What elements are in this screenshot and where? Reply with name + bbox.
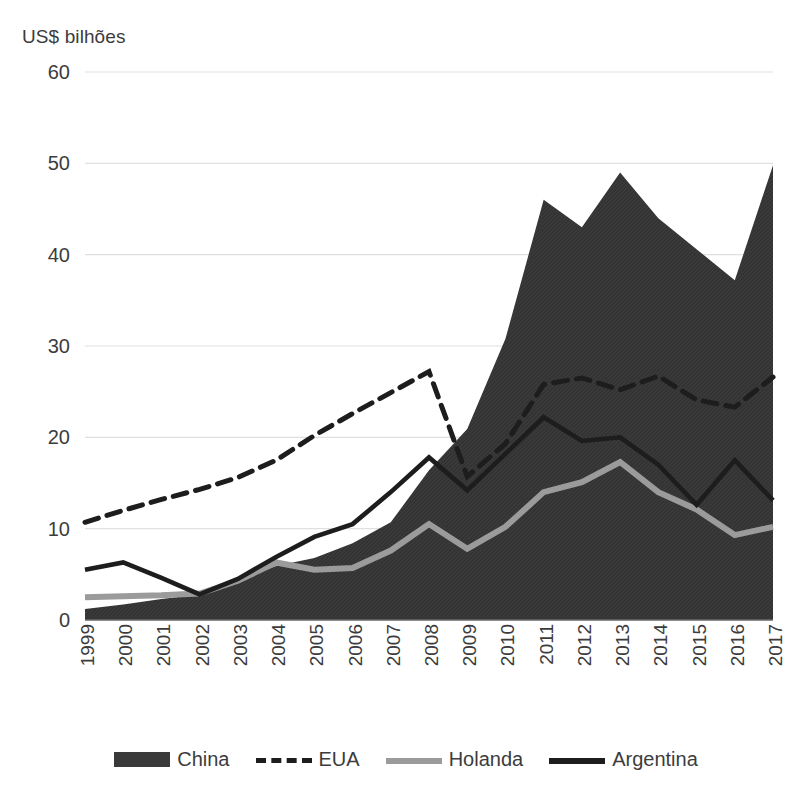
x-tick-label: 2013: [612, 624, 634, 666]
x-tick-label: 2011: [536, 624, 558, 665]
x-tick-label: 2017: [765, 624, 787, 666]
area-swatch-icon: [114, 752, 170, 767]
plot-area: [85, 72, 773, 620]
x-tick-label: 2009: [459, 624, 481, 666]
x-tick-label: 2014: [650, 624, 672, 666]
y-axis-tick-labels: 0102030405060: [0, 72, 70, 620]
solid-line-swatch-icon: [549, 758, 605, 764]
x-tick-label: 2003: [230, 624, 252, 666]
y-tick-label: 20: [12, 426, 70, 449]
x-tick-label: 2006: [345, 624, 367, 666]
x-tick-label: 2010: [497, 624, 519, 666]
x-tick-label: 2002: [192, 624, 214, 666]
y-tick-label: 40: [12, 243, 70, 266]
legend-label: China: [177, 748, 229, 771]
legend-item-holanda[interactable]: Holanda: [386, 748, 524, 771]
y-tick-label: 30: [12, 335, 70, 358]
x-tick-label: 2004: [268, 624, 290, 666]
chart-legend: ChinaEUAHolandaArgentina: [0, 748, 812, 771]
chart-plot-svg: [85, 72, 773, 620]
series-area-china: [85, 165, 773, 620]
x-axis-tick-labels: 1999200020012002200320042005200620072008…: [85, 624, 773, 714]
y-tick-label: 60: [12, 61, 70, 84]
legend-item-argentina[interactable]: Argentina: [549, 748, 698, 771]
legend-item-eua[interactable]: EUA: [256, 748, 360, 771]
x-tick-label: 2001: [153, 624, 175, 666]
y-tick-label: 0: [12, 609, 70, 632]
series-group: [85, 165, 773, 620]
y-tick-label: 10: [12, 517, 70, 540]
x-tick-label: 2005: [306, 624, 328, 666]
y-axis-unit-label: US$ bilhões: [22, 26, 126, 48]
legend-label: Holanda: [449, 748, 524, 771]
chart-container: US$ bilhões 0102030405060 19992000200120…: [0, 0, 812, 806]
x-tick-label: 2007: [383, 624, 405, 666]
legend-label: Argentina: [612, 748, 698, 771]
x-tick-label: 2015: [689, 624, 711, 666]
y-tick-label: 50: [12, 152, 70, 175]
gray-line-swatch-icon: [386, 758, 442, 764]
x-tick-label: 1999: [77, 624, 99, 666]
x-tick-label: 2000: [115, 624, 137, 666]
legend-item-china[interactable]: China: [114, 748, 229, 771]
x-tick-label: 2008: [421, 624, 443, 666]
legend-label: EUA: [319, 748, 360, 771]
x-tick-label: 2016: [727, 624, 749, 666]
x-tick-label: 2012: [574, 624, 596, 666]
dashed-line-swatch-icon: [256, 758, 312, 763]
